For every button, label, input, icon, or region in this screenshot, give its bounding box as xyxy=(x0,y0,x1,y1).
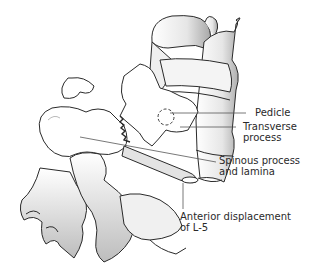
spine-diagram: Pedicle Transverse process Spinous proce… xyxy=(0,0,309,266)
label-spinous-process: Spinous process and lamina xyxy=(219,155,300,177)
label-transverse-process: Transverse process xyxy=(243,121,297,143)
spinous-process xyxy=(39,107,127,157)
label-anterior-displacement: Anterior displacement of L-5 xyxy=(180,211,291,233)
label-pedicle: Pedicle xyxy=(255,107,290,118)
